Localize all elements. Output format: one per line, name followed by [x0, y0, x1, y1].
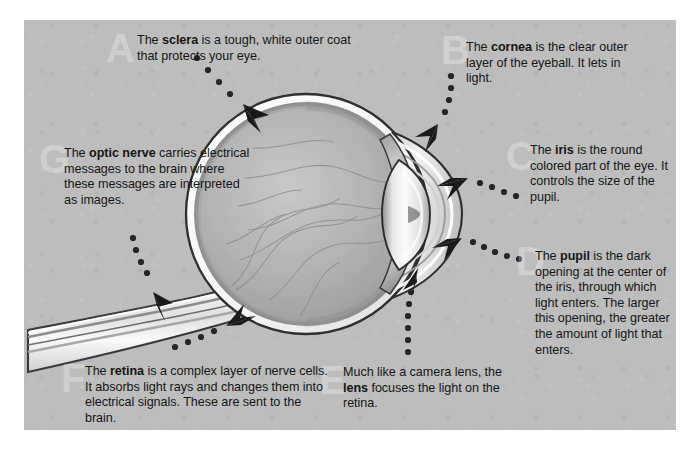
callout-retina-before: The [85, 364, 110, 378]
callout-pupil-term: pupil [560, 249, 590, 263]
callout-optic-nerve-before: The [64, 146, 89, 160]
callout-optic-nerve: The optic nerve carries electrical messa… [64, 146, 250, 208]
callout-cornea: The cornea is the clear outer layer of t… [466, 40, 634, 87]
callout-sclera-before: The [137, 33, 162, 47]
callout-iris-term: iris [555, 143, 574, 157]
callout-lens: Much like a camera lens, the lens focuse… [343, 365, 519, 412]
callout-sclera: The sclera is a tough, white outer coat … [137, 33, 355, 64]
callout-pupil-before: The [535, 249, 560, 263]
callout-sclera-term: sclera [162, 33, 198, 47]
callout-pupil-after: is the dark opening at the center of the… [535, 249, 670, 357]
callout-retina-term: retina [110, 364, 144, 378]
callout-cornea-term: cornea [491, 40, 532, 54]
callout-retina: The retina is a complex layer of nerve c… [85, 364, 328, 426]
watermark-letter-f: F [61, 358, 85, 398]
callout-iris: The iris is the round colored part of th… [530, 143, 680, 205]
callout-cornea-before: The [466, 40, 491, 54]
callout-lens-term: lens [343, 381, 368, 395]
watermark-letter-a: A [106, 28, 135, 68]
eye-anatomy-diagram: A B C D E F G The sclera is a tough, whi… [0, 0, 699, 451]
callout-optic-nerve-term: optic nerve [89, 146, 156, 160]
callout-lens-before: Much like a camera lens, the [343, 365, 502, 379]
callout-pupil: The pupil is the dark opening at the cen… [535, 249, 681, 358]
callout-iris-before: The [530, 143, 555, 157]
